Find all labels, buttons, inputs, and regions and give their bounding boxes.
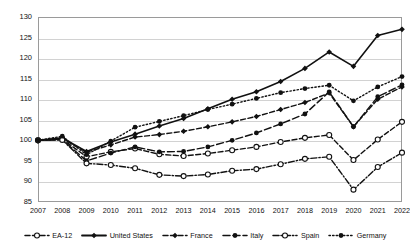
data-point-marker — [157, 172, 162, 177]
data-point-marker — [400, 119, 405, 124]
data-point-marker — [399, 27, 405, 33]
legend-label: Spain — [301, 231, 319, 240]
x-axis-tick: 2012 — [151, 206, 167, 215]
data-point-marker — [181, 149, 186, 154]
y-axis-tick: 130 — [19, 13, 32, 21]
data-point-marker — [205, 172, 210, 177]
series-united-states — [35, 27, 405, 155]
legend-label: Germany — [357, 231, 387, 240]
data-point-marker — [108, 139, 113, 144]
data-point-marker — [302, 135, 307, 140]
data-point-marker — [278, 121, 283, 126]
legend-marker-filled-diamond — [81, 231, 107, 240]
x-axis-tick: 2021 — [370, 206, 386, 215]
x-axis-tick: 2007 — [30, 206, 46, 215]
data-point-marker — [230, 138, 235, 143]
data-point-marker — [157, 119, 162, 124]
y-axis-tick: 120 — [19, 54, 32, 62]
data-point-marker — [232, 233, 237, 238]
data-point-marker — [375, 137, 380, 142]
data-point-marker — [133, 166, 138, 171]
data-point-marker — [181, 174, 186, 179]
series-line — [38, 122, 402, 160]
legend-label: EA-12 — [52, 231, 72, 240]
data-point-marker — [302, 156, 307, 161]
x-axis-tick: 2010 — [103, 206, 119, 215]
data-point-marker — [205, 151, 210, 156]
data-point-marker — [84, 161, 89, 166]
data-point-marker — [205, 145, 210, 150]
data-point-marker — [375, 84, 380, 89]
data-point-marker — [60, 134, 65, 139]
data-point-marker — [181, 128, 187, 134]
data-point-marker — [181, 153, 186, 158]
data-point-marker — [351, 158, 356, 163]
data-point-marker — [230, 148, 235, 153]
data-point-marker — [205, 107, 210, 112]
series-spain — [36, 137, 405, 192]
legend-marker-filled-circle — [328, 231, 354, 240]
data-point-marker — [351, 187, 356, 192]
y-axis-tick: 105 — [19, 116, 32, 124]
x-axis-tick: 2019 — [321, 206, 337, 215]
chart-legend: EA-12United StatesFranceItalySpainGerman… — [0, 226, 410, 244]
data-point-marker — [157, 149, 162, 154]
data-point-marker — [375, 165, 380, 170]
y-axis-tick: 100 — [19, 136, 32, 144]
data-point-marker — [278, 139, 283, 144]
data-point-marker — [303, 112, 308, 117]
data-point-marker — [254, 131, 259, 136]
x-axis-tick: 2008 — [54, 206, 70, 215]
series-germany — [36, 74, 405, 157]
data-point-marker — [278, 90, 283, 95]
legend-marker-filled-diamond — [162, 231, 188, 240]
data-point-marker — [254, 96, 259, 101]
data-point-marker — [230, 168, 235, 173]
legend-item-spain[interactable]: Spain — [272, 231, 319, 240]
data-point-marker — [254, 89, 260, 95]
series-layer — [38, 17, 402, 202]
data-point-marker — [327, 89, 332, 94]
y-axis-tick: 125 — [19, 34, 32, 42]
series-ea-12 — [36, 119, 405, 162]
x-axis-tick: 2015 — [224, 206, 240, 215]
x-axis-tick: 2016 — [248, 206, 264, 215]
x-axis-tick: 2017 — [273, 206, 289, 215]
x-axis-labels: 2007200820092010201120122013201420152016… — [0, 206, 410, 218]
legend-label: Italy — [250, 231, 263, 240]
data-point-marker — [400, 150, 405, 155]
data-point-marker — [108, 151, 113, 156]
legend-marker-open-circle — [24, 231, 50, 240]
data-point-marker — [133, 145, 138, 150]
data-point-marker — [302, 100, 308, 106]
data-point-marker — [181, 113, 186, 118]
series-line — [38, 29, 402, 151]
data-point-marker — [327, 132, 332, 137]
data-point-marker — [205, 124, 211, 130]
data-point-marker — [157, 132, 163, 138]
data-point-marker — [278, 107, 284, 113]
data-point-marker — [254, 167, 259, 172]
legend-item-united-states[interactable]: United States — [81, 231, 153, 240]
data-point-marker — [339, 233, 344, 238]
legend-label: United States — [110, 231, 153, 240]
data-point-marker — [400, 82, 405, 87]
data-point-marker — [157, 123, 163, 129]
data-point-marker — [351, 98, 356, 103]
y-axis-tick: 95 — [24, 157, 32, 165]
legend-item-france[interactable]: France — [162, 231, 213, 240]
legend-item-germany[interactable]: Germany — [328, 231, 386, 240]
data-point-marker — [133, 125, 138, 130]
x-axis-tick: 2009 — [79, 206, 95, 215]
data-point-marker — [400, 74, 405, 79]
legend-marker-filled-circle — [222, 231, 248, 240]
x-axis-tick: 2022 — [394, 206, 410, 215]
legend-item-ea-12[interactable]: EA-12 — [24, 231, 72, 240]
data-point-marker — [172, 232, 178, 238]
legend-item-italy[interactable]: Italy — [222, 231, 264, 240]
x-axis-tick: 2013 — [176, 206, 192, 215]
data-point-marker — [254, 114, 260, 120]
data-point-marker — [283, 233, 288, 238]
data-point-marker — [36, 138, 41, 143]
data-point-marker — [254, 144, 259, 149]
